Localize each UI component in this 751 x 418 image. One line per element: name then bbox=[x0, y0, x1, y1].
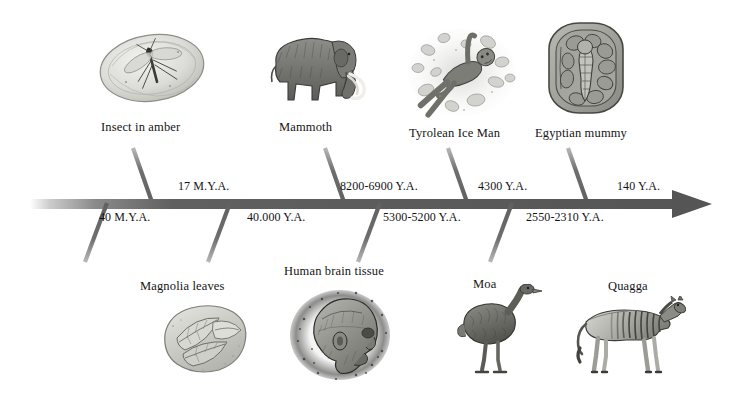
caption-insect-in-amber: Insect in amber bbox=[101, 120, 180, 135]
date-label-140-ya: 140 Y.A. bbox=[617, 179, 660, 194]
date-label-5300-5200-ya: 5300-5200 Y.A. bbox=[383, 210, 461, 225]
date-label-4300-ya: 4300 Y.A. bbox=[478, 179, 527, 194]
amber-fossil-illustration bbox=[96, 22, 208, 114]
tick-up-brain bbox=[325, 148, 345, 205]
caption-moa: Moa bbox=[473, 277, 496, 292]
axis-bar bbox=[30, 199, 680, 209]
tick-up-magnolia bbox=[133, 148, 153, 205]
caption-mammoth: Mammoth bbox=[279, 120, 332, 135]
tick-up-group bbox=[133, 148, 588, 205]
date-label-2550-2310-ya: 2550-2310 Y.A. bbox=[526, 210, 604, 225]
caption-human-brain-tissue: Human brain tissue bbox=[284, 264, 384, 279]
leaf-fossil-illustration bbox=[157, 300, 253, 380]
tick-up-moa bbox=[448, 148, 468, 205]
date-label-40000-ya: 40.000 Y.A. bbox=[247, 210, 305, 225]
caption-quagga: Quagga bbox=[608, 279, 648, 294]
ice-man-illustration bbox=[406, 20, 518, 120]
date-label-8200-6900-ya: 8200-6900 Y.A. bbox=[340, 179, 418, 194]
date-label-40-mya: 40 M.Y.A. bbox=[99, 210, 150, 225]
sarcophagus-illustration bbox=[537, 17, 635, 117]
caption-egyptian-mummy: Egyptian mummy bbox=[535, 126, 627, 141]
caption-magnolia-leaves: Magnolia leaves bbox=[140, 279, 225, 294]
tick-down-iceman bbox=[358, 203, 380, 262]
date-label-17-mya: 17 M.Y.A. bbox=[178, 179, 229, 194]
timeline-diagram: Insect in amber Mammoth Tyrolean Ice Man… bbox=[0, 0, 751, 418]
tick-down-mummy bbox=[490, 203, 512, 262]
axis-arrowhead bbox=[672, 190, 712, 218]
tick-down-mammoth bbox=[208, 203, 230, 262]
quagga-illustration bbox=[568, 296, 686, 376]
tick-up-quagga bbox=[568, 148, 588, 205]
caption-tyrolean-ice-man: Tyrolean Ice Man bbox=[409, 126, 500, 141]
human-head-illustration bbox=[288, 289, 392, 381]
moa-bird-illustration bbox=[456, 284, 546, 376]
mammoth-illustration bbox=[262, 26, 370, 116]
